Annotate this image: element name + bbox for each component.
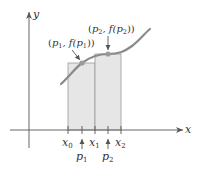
x-axis-label: x bbox=[185, 123, 192, 136]
callout-label-1: (p1, f(p1)) bbox=[48, 37, 95, 50]
sample-point-2-dot bbox=[105, 51, 110, 56]
callout-label-2: (p2, f(p2)) bbox=[88, 23, 135, 36]
riemann-diagram: y x x0 x1 x2 p1 p2 (p1, bbox=[0, 0, 204, 173]
label-x0: x0 bbox=[62, 136, 73, 150]
label-p2: p2 bbox=[102, 150, 114, 164]
label-x1: x1 bbox=[89, 136, 100, 150]
label-p1: p1 bbox=[76, 150, 88, 164]
y-axis-label: y bbox=[32, 8, 40, 21]
sample-point-1-dot bbox=[79, 60, 84, 65]
rectangle-2 bbox=[95, 54, 121, 130]
callout-arrow-1 bbox=[72, 50, 80, 60]
label-x2: x2 bbox=[115, 136, 126, 150]
diagram-canvas: y x x0 x1 x2 p1 p2 (p1, bbox=[0, 0, 204, 173]
